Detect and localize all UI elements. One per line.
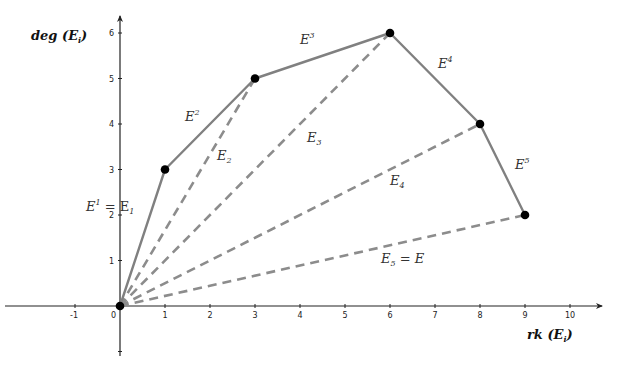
vertex-point <box>521 211 530 220</box>
vertex-point <box>386 29 395 38</box>
y-axis-title: deg (Ei) <box>31 28 87 45</box>
edge-label-e2: E2 <box>184 108 200 124</box>
polygon-vertices <box>116 29 530 311</box>
x-tick-label: 5 <box>343 311 348 320</box>
vertex-point <box>251 74 260 83</box>
edge-label-e4: E4 <box>437 55 453 71</box>
hn-polygon <box>120 33 525 306</box>
vertex-point <box>161 165 170 174</box>
chord-label-e3: E3 <box>306 130 322 147</box>
y-tick-label: 1 <box>109 257 114 266</box>
x-tick-label: 8 <box>478 311 483 320</box>
edge-label-e3: E3 <box>299 31 315 47</box>
x-tick-label: 10 <box>565 311 575 320</box>
x-axis-title: rk (Ei) <box>527 327 573 344</box>
edge-label-e5: E5 <box>514 156 530 172</box>
x-tick-label: 3 <box>253 311 258 320</box>
x-tick-label: 9 <box>523 311 528 320</box>
vertex-point <box>116 302 125 311</box>
x-tick-label: 7 <box>433 311 438 320</box>
x-tick-label: 6 <box>388 311 393 320</box>
dashed-chord <box>120 33 390 306</box>
polygon-path <box>120 33 525 306</box>
dashed-chords <box>120 33 525 306</box>
y-tick-label: 4 <box>109 120 114 129</box>
vertex-point <box>476 120 485 129</box>
edge-label-e1: E1 = E1 <box>85 198 134 216</box>
dashed-chord <box>120 215 525 306</box>
y-tick-label: 5 <box>109 75 114 84</box>
hn-polygon-diagram: -1012345678910 123456 E1 = E1 E2 E3 E4 E… <box>0 0 629 367</box>
chord-label-e5: E5 = E <box>380 251 425 268</box>
y-tick-label: 6 <box>109 29 114 38</box>
chord-label-e2: E2 <box>216 148 232 165</box>
x-tick-label: -1 <box>70 311 78 320</box>
x-tick-label: 0 <box>111 311 116 320</box>
x-tick-label: 2 <box>208 311 213 320</box>
y-tick-label: 3 <box>109 166 114 175</box>
x-tick-label: 4 <box>298 311 303 320</box>
x-tick-label: 1 <box>163 311 168 320</box>
chord-label-e4: E4 <box>389 173 405 190</box>
